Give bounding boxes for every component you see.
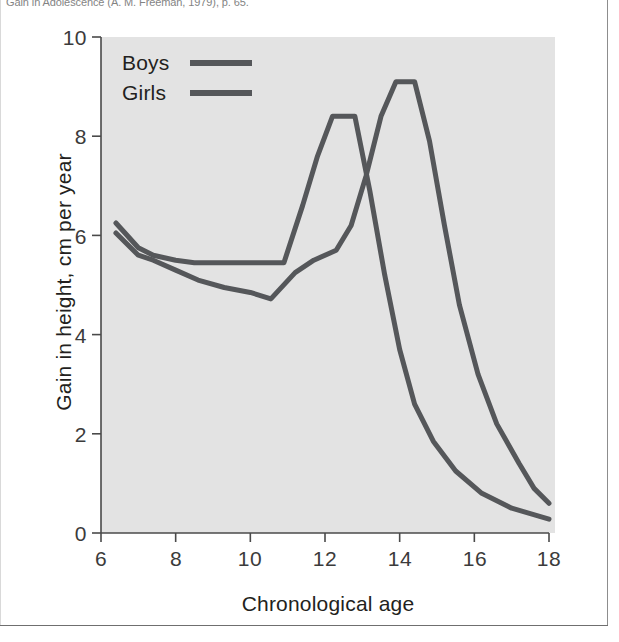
x-tick-label-16: 16 (455, 548, 495, 569)
series-line-girls (116, 82, 549, 504)
x-tick-label-18: 18 (529, 548, 569, 569)
axis-group (101, 37, 549, 533)
data-series-group (116, 82, 549, 519)
y-tick-label-0: 0 (47, 523, 87, 544)
x-tick-label-6: 6 (81, 548, 121, 569)
x-tick-label-10: 10 (230, 548, 270, 569)
tick-marks (92, 37, 549, 542)
x-tick-label-12: 12 (305, 548, 345, 569)
growth-velocity-chart: 10 8 6 4 2 0 6 8 10 12 14 16 18 Gain in … (0, 0, 619, 642)
legend-label-girls: Girls (122, 81, 184, 105)
legend-label-boys: Boys (122, 51, 184, 75)
x-tick-label-14: 14 (380, 548, 420, 569)
x-tick-label-8: 8 (156, 548, 196, 569)
legend-item-boys: Boys (122, 48, 252, 78)
y-axis-title: Gain in height, cm per year (52, 102, 76, 462)
legend-swatch-boys (190, 60, 252, 66)
plot-svg (0, 0, 619, 642)
legend-swatch-girls (190, 90, 252, 96)
series-line-boys (116, 116, 549, 519)
y-tick-label-10: 10 (47, 27, 87, 48)
x-axis-title: Chronological age (101, 592, 555, 616)
chart-legend: Boys Girls (122, 48, 252, 108)
legend-item-girls: Girls (122, 78, 252, 108)
